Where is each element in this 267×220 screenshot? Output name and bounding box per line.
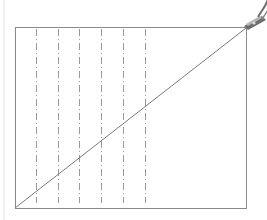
clothespin-icon [244, 0, 267, 30]
diagram-canvas [0, 0, 267, 220]
dashed-guides [37, 29, 146, 203]
diagonal-line [15, 28, 246, 208]
